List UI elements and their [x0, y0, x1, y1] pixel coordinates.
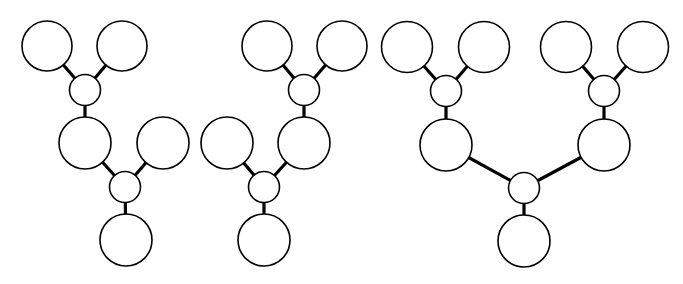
- junction-node-f: [249, 172, 280, 203]
- junction-node-c: [431, 76, 462, 107]
- leaf-node-a: [242, 21, 292, 71]
- junction-node-c: [70, 75, 101, 106]
- junction-node-f: [110, 172, 141, 203]
- tree-diagram-canvas: [0, 0, 683, 284]
- leaf-node-g: [238, 214, 290, 266]
- leaf-node-b: [459, 22, 510, 73]
- leaf-node-e: [618, 22, 669, 73]
- junction-node-c: [289, 75, 320, 106]
- leaf-node-e: [278, 117, 330, 169]
- leaf-node-d: [59, 117, 111, 169]
- leaf-node-b: [97, 21, 147, 71]
- leaf-node-g: [100, 214, 152, 266]
- leaf-node-j: [498, 215, 550, 267]
- junction-node-i: [509, 173, 540, 204]
- leaf-node-d: [201, 117, 253, 169]
- leaf-node-g: [420, 119, 472, 171]
- leaf-node-a: [22, 21, 72, 71]
- leaf-node-h: [578, 119, 630, 171]
- leaf-node-e: [137, 117, 189, 169]
- leaf-node-b: [317, 21, 367, 71]
- leaf-node-a: [382, 22, 433, 73]
- leaf-node-d: [541, 22, 592, 73]
- junction-node-f: [589, 76, 620, 107]
